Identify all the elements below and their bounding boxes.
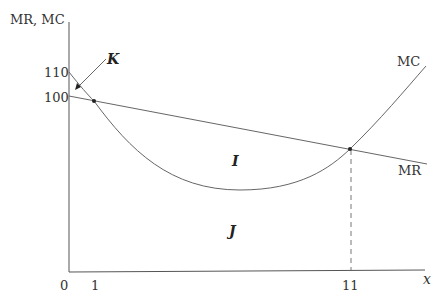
x-tick-11: 11 [342,278,359,293]
mc-label: MC [397,54,420,69]
region-label-j: J [226,223,237,239]
mc-curve [69,66,426,190]
y-axis-label: MR, MC [10,12,65,27]
intersection-point-x1 [92,99,96,103]
region-label-i: I [231,153,239,169]
k-arrow-line [78,59,106,87]
region-label-k: K [106,51,120,67]
intersection-point-x11 [348,147,352,151]
mr-label: MR [398,163,422,178]
x-axis-label: x [423,271,431,287]
mr-line [69,96,427,164]
k-arrow-head [75,83,81,90]
x-tick-0: 0 [60,278,68,293]
y-tick-100: 100 [44,90,69,105]
x-axis [69,270,425,272]
x-tick-1: 1 [91,278,99,293]
chart: MR, MC 110 100 0 1 11 x K I J MC MR [0,0,440,300]
y-tick-110: 110 [44,65,69,80]
